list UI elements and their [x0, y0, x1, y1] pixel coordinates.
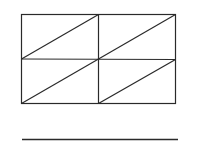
diagonal-top-right — [99, 15, 176, 60]
diagonal-top-left — [22, 15, 99, 60]
lattice-diagram — [0, 0, 197, 144]
lattice-grid — [22, 15, 176, 104]
diagonal-bottom-right — [99, 60, 176, 104]
diagonal-bottom-left — [22, 59, 99, 104]
